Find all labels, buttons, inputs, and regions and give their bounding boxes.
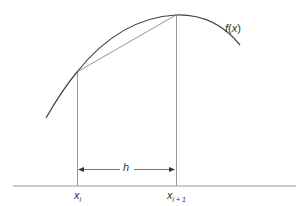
- function-label: f(x): [225, 23, 241, 34]
- point-label-xi: xi: [74, 190, 81, 203]
- secant-chord: [77, 15, 176, 72]
- function-curve: [46, 15, 240, 118]
- arrowhead-right-icon: [169, 167, 175, 172]
- interval-label-h: h: [121, 162, 131, 173]
- point-label-xi1-subscript: i + 1: [173, 196, 186, 203]
- point-label-xi1: xi + 1: [167, 190, 186, 203]
- function-label-close-paren: ): [237, 22, 241, 34]
- diagram-canvas: f(x) h xi xi + 1: [0, 0, 308, 206]
- arrowhead-left-icon: [78, 167, 84, 172]
- diagram-svg: [0, 0, 308, 206]
- point-label-xi-subscript: i: [80, 196, 82, 203]
